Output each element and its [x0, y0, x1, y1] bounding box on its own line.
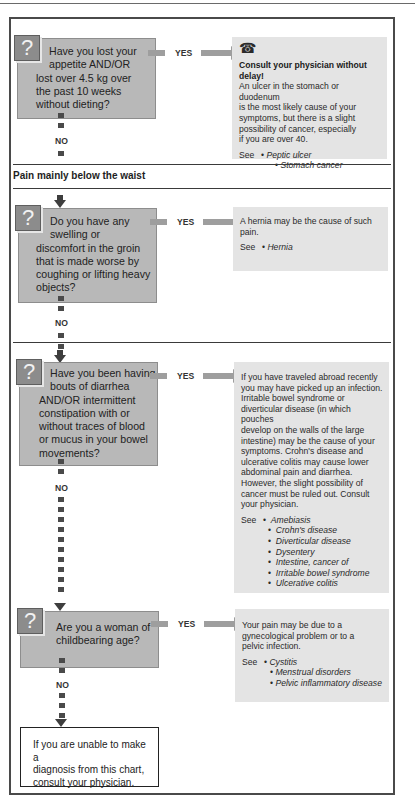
reference-link[interactable]: Diverticular disease — [276, 536, 351, 546]
no-connector — [58, 459, 64, 474]
answer-line: is the most likely cause of your — [239, 102, 381, 113]
see-also: See • Cystitis • Menstrual disorders • P… — [242, 657, 383, 689]
reference-link[interactable]: Dysentery — [276, 547, 315, 557]
see-label: See — [240, 242, 262, 253]
reference-link[interactable]: Intestine, cancer of — [276, 557, 349, 567]
answer-line: An ulcer in the stomach or duodenum — [239, 81, 381, 102]
final-line: consult your physician. — [33, 777, 146, 790]
question-mark-icon: ? — [15, 205, 41, 231]
reference-link[interactable]: Amebiasis — [271, 515, 311, 525]
yes-arrow: YES — [150, 216, 243, 228]
reference-link[interactable]: Peptic ulcer — [266, 150, 311, 160]
answer-line: abdominal pain and diarrhea. — [241, 467, 383, 478]
see-label: See — [241, 515, 263, 589]
answer-line: pelvic infection. — [242, 641, 383, 652]
arrow-bar — [150, 373, 167, 379]
reference-link[interactable]: Pelvic inflammatory disease — [275, 678, 382, 688]
arrow-bar — [148, 50, 165, 56]
question-line: AND/OR intermittent — [20, 394, 157, 407]
answer-box-urgent: ☎ Consult your physician without delay! … — [232, 37, 387, 159]
answer-box-gynecological: Your pain may be due to a gynecological … — [235, 609, 389, 702]
question-line: childbearing age? — [21, 634, 158, 647]
no-label: NO — [55, 483, 68, 493]
answer-line: Irritable bowel syndrome or — [241, 393, 383, 404]
dash — [58, 344, 64, 349]
question-line: objects? — [19, 281, 156, 294]
no-label: NO — [56, 680, 69, 690]
dash — [59, 668, 65, 673]
no-label: NO — [55, 318, 68, 328]
reference-link[interactable]: Irritable bowel syndrome — [276, 568, 370, 578]
yes-arrow: YES — [148, 47, 241, 59]
question-line: the past 10 weeks — [18, 85, 155, 98]
question-line: movements? — [20, 447, 157, 460]
arrow-down-icon — [55, 719, 67, 727]
reference-link[interactable]: Hernia — [267, 242, 292, 252]
question-mark-icon: ? — [16, 359, 42, 385]
yes-label: YES — [178, 619, 195, 629]
answer-line: symptoms, but there is a slight — [239, 113, 381, 124]
dash — [58, 113, 64, 118]
answer-line: your physician. — [241, 499, 383, 510]
telephone-icon: ☎ — [239, 41, 381, 55]
section-heading: Pain mainly below the waist — [13, 170, 145, 181]
answer-line: gynecological problem or to a — [242, 631, 383, 642]
answer-line: develop on the walls of the large — [241, 425, 383, 436]
answer-line: ulcerative colitis may cause lower — [241, 457, 383, 468]
dash — [58, 306, 64, 311]
answer-line: diverticular disease (in which pouches — [241, 404, 383, 425]
reference-link[interactable]: Stomach cancer — [280, 160, 342, 170]
arrow-down-icon — [54, 200, 66, 208]
divider — [13, 188, 391, 189]
reference-link[interactable]: Crohn's disease — [276, 525, 337, 535]
arrow-down-icon — [54, 603, 66, 611]
question-line: without traces of blood — [20, 420, 157, 433]
divider — [13, 164, 391, 165]
answer-box-hernia: A hernia may be the cause of such pain. … — [233, 207, 388, 271]
urgent-headline: Consult your physician without delay! — [239, 60, 381, 81]
answer-line: if you are over 40. — [239, 134, 381, 145]
dash — [58, 567, 64, 572]
no-connector — [59, 693, 65, 718]
arrow-bar — [150, 219, 167, 225]
arrow-bar — [151, 621, 168, 627]
no-connector — [58, 497, 64, 592]
yes-label: YES — [175, 48, 192, 58]
dash — [58, 459, 64, 464]
question-line: or mucus in your bowel — [20, 433, 157, 446]
top-rule — [0, 3, 415, 4]
reference-link[interactable]: Menstrual disorders — [275, 667, 350, 677]
question-line: lost over 4.5 kg over — [18, 72, 155, 85]
dash — [58, 517, 64, 522]
question-mark-icon: ? — [17, 608, 43, 634]
question-line: discomfort in the groin — [19, 242, 156, 255]
dash — [58, 507, 64, 512]
dash — [58, 537, 64, 542]
answer-line: However, the slight possibility of — [241, 478, 383, 489]
dash — [58, 296, 64, 301]
dash — [58, 151, 64, 156]
dash — [58, 587, 64, 592]
divider — [13, 342, 391, 343]
yes-label: YES — [177, 217, 194, 227]
answer-line: Your pain may be due to a — [242, 620, 383, 631]
question-line: constipation with or — [20, 407, 157, 420]
see-also: See • Peptic ulcer • Stomach cancer — [239, 150, 381, 171]
answer-line: you may have picked up an infection. — [241, 383, 383, 394]
dash — [58, 547, 64, 552]
yes-arrow: YES — [150, 370, 243, 382]
reference-link[interactable]: Cystitis — [269, 657, 297, 667]
see-label: See — [242, 657, 264, 689]
yes-arrow: YES — [151, 618, 244, 630]
question-mark-icon: ? — [14, 35, 40, 61]
see-also: See • Hernia — [240, 242, 382, 253]
dash — [58, 557, 64, 562]
dash — [59, 713, 65, 718]
no-label: NO — [55, 136, 68, 146]
question-line: coughing or lifting heavy — [19, 268, 156, 281]
reference-link[interactable]: Ulcerative colitis — [276, 578, 338, 588]
final-advice-box: If you are unable to make a diagnosis fr… — [20, 727, 159, 787]
answer-line: possibility of cancer, especially — [239, 124, 381, 135]
arrow-bar — [203, 219, 233, 225]
no-connector — [58, 113, 64, 128]
